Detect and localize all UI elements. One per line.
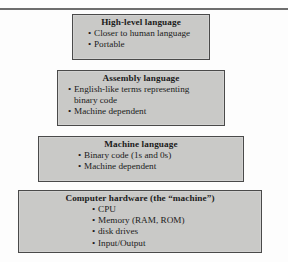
layer-stack: High-level language •Closer to human lan…	[0, 0, 288, 262]
list-item: •Machine dependent	[78, 161, 236, 172]
layer-block-high-level-language[interactable]: High-level language •Closer to human lan…	[72, 14, 210, 60]
bullet-text: CPU	[98, 204, 116, 214]
list-item: •Closer to human language	[88, 28, 202, 39]
list-item: •Portable	[88, 39, 202, 50]
layer-block-computer-hardware[interactable]: Computer hardware (the “machine”) •CPU •…	[18, 190, 262, 253]
layer-bullets-assembly-language: •English-like terms representing binary …	[68, 84, 217, 118]
layer-block-assembly-language[interactable]: Assembly language •English-like terms re…	[57, 70, 225, 126]
bullet-text: Input/Output	[98, 238, 145, 248]
list-item: •Memory (RAM, ROM)	[92, 215, 254, 226]
layer-title-computer-hardware: Computer hardware (the “machine”)	[26, 193, 254, 204]
list-item: •Input/Output	[92, 238, 254, 249]
layer-block-machine-language[interactable]: Machine language •Binary code (1s and 0s…	[38, 136, 244, 182]
bullet-text: Machine dependent	[84, 161, 156, 171]
layer-content-assembly-language: Assembly language •English-like terms re…	[57, 70, 225, 126]
bullet-text: Binary code (1s and 0s)	[84, 150, 171, 160]
bullet-text: Closer to human language	[94, 28, 190, 38]
bullet-text: disk drives	[98, 226, 138, 236]
bullet-text: Machine dependent	[74, 106, 146, 116]
list-item: •CPU	[92, 204, 254, 215]
layer-content-machine-language: Machine language •Binary code (1s and 0s…	[38, 136, 244, 182]
layer-title-assembly-language: Assembly language	[65, 73, 217, 84]
list-item: binary code	[68, 95, 217, 106]
layer-bullets-machine-language: •Binary code (1s and 0s) •Machine depend…	[78, 150, 236, 172]
list-item: •Machine dependent	[68, 106, 217, 117]
bullet-text: Memory (RAM, ROM)	[98, 215, 185, 225]
figure-canvas: High-level language •Closer to human lan…	[0, 0, 288, 262]
bullet-text: Portable	[94, 39, 125, 49]
list-item: •English-like terms representing	[68, 84, 217, 95]
layer-title-high-level-language: High-level language	[80, 17, 202, 28]
layer-bullets-computer-hardware: •CPU •Memory (RAM, ROM) •disk drives •In…	[92, 204, 254, 249]
layer-bullets-high-level-language: •Closer to human language •Portable	[88, 28, 202, 50]
layer-content-computer-hardware: Computer hardware (the “machine”) •CPU •…	[18, 190, 262, 253]
list-item: •disk drives	[92, 226, 254, 237]
layer-title-machine-language: Machine language	[46, 139, 236, 150]
list-item: •Binary code (1s and 0s)	[78, 150, 236, 161]
bullet-text: binary code	[74, 95, 117, 105]
bullet-text: English-like terms representing	[74, 84, 189, 94]
layer-content-high-level-language: High-level language •Closer to human lan…	[72, 14, 210, 60]
